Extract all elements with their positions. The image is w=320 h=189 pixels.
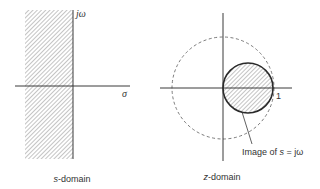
image-annotation: Image of s = jω [242,147,303,157]
left-half-plane-hatch [25,10,73,159]
j-omega-axis-label: jω [74,8,86,19]
unit-point-label: 1 [276,91,281,101]
z-domain-plot: 1 Image of s = jω z-domain [160,13,303,182]
sigma-axis-label: σ [122,88,128,99]
annotation-leader-line [242,112,252,144]
s-domain-caption: s-domain [53,174,90,184]
s-domain-plot: jω σ s-domain [15,8,130,184]
z-domain-caption: z-domain [202,172,240,182]
mapping-diagram: jω σ s-domain 1 Image of s = jω z-domain [0,0,320,189]
